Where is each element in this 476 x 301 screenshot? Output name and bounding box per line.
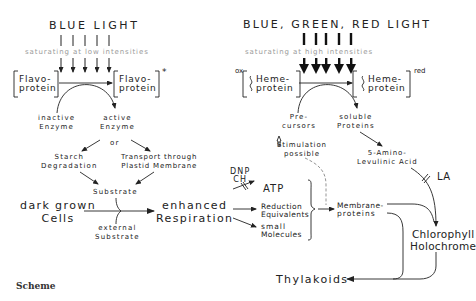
flavoprotein-active: Flavo-protein: [119, 75, 157, 94]
active-enzyme: activeEnzyme: [100, 115, 135, 131]
low-intensity-label: saturating at low intensities: [25, 49, 149, 56]
high-intensity-label: saturating at high intensities: [245, 49, 373, 56]
thylakoids-label: Thylakoids: [276, 274, 348, 287]
or-label: or: [110, 140, 120, 147]
chlorophyll-holochrome: ChlorophyllHolochrome: [410, 228, 476, 252]
membrane-proteins: Membrane-proteins: [337, 202, 384, 217]
precursors-label: Pre-cursors: [282, 114, 316, 130]
bgr-light-arrows: [299, 58, 356, 74]
plastid-transport: Transport throughPlastid Membrane: [121, 154, 197, 170]
excited-mark: *: [162, 68, 167, 77]
atp-label: ATP: [263, 184, 284, 194]
dnp-ch-inhibitors: DNPCH: [230, 168, 251, 184]
la-inhibitor: LA: [437, 172, 450, 182]
dark-grown-cells: dark grownCells: [20, 200, 96, 225]
inactive-enzyme: inactiveEnzyme: [38, 115, 75, 131]
hemeprotein-oxidized: Heme-protein: [256, 75, 294, 94]
ox-label: ox: [235, 68, 243, 75]
bgr-light-title: BLUE, GREEN, RED LIGHT: [243, 19, 431, 30]
hemeprotein-reduced: Heme-protein: [368, 75, 406, 94]
scheme-caption: Scheme: [16, 282, 56, 291]
blue-light-rays: [61, 35, 109, 46]
reduction-equivalents: ReductionEquivalents: [261, 203, 309, 218]
small-molecules: smallMolecules: [261, 223, 302, 238]
flavoprotein-inactive: Flavo-protein: [19, 75, 57, 94]
bgr-light-rays: [304, 33, 351, 45]
starch-degradation: StarchDegradation: [41, 154, 98, 170]
external-substrate: externalSubstrate: [95, 225, 140, 241]
blue-light-title: BLUE LIGHT: [49, 20, 140, 31]
substrate-label: Substrate: [93, 189, 138, 196]
stimulation-possible: Stimulationpossible: [277, 142, 327, 158]
red-label: red: [414, 68, 425, 75]
soluble-proteins: solubleProteins: [337, 114, 375, 130]
enhanced-respiration: enhancedRespiration: [156, 200, 233, 225]
blue-light-arrows: [61, 58, 109, 72]
aminolevulinic-acid: 5-Amino-Levulinic Acid: [357, 150, 418, 166]
